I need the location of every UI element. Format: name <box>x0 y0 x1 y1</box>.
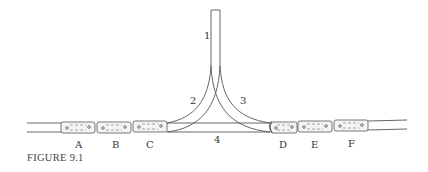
car-e <box>298 121 332 132</box>
car-label-d: D <box>279 139 287 150</box>
main-track-right-rail-bottom <box>368 129 407 130</box>
track-label-1: 1 <box>204 30 210 41</box>
car-f <box>334 120 368 131</box>
car-a <box>61 122 95 133</box>
car-d <box>269 122 297 133</box>
car-label-e: E <box>311 139 318 150</box>
figure-canvas: 1 2 3 4 A B C D E F FIGURE 9.1 <box>0 0 428 172</box>
car-label-a: A <box>74 139 83 150</box>
car-label-c: C <box>146 139 154 150</box>
railway-diagram: 1 2 3 4 A B C D E F <box>0 0 428 172</box>
car-b <box>97 122 131 133</box>
track-1-stem <box>211 10 220 66</box>
car-c <box>133 121 167 132</box>
track-label-3: 3 <box>240 95 246 106</box>
track-label-2: 2 <box>190 95 196 106</box>
car-label-f: F <box>348 138 355 149</box>
track-label-4: 4 <box>214 134 220 145</box>
car-label-b: B <box>112 139 119 150</box>
main-track-right-rail-top <box>368 120 407 121</box>
figure-caption: FIGURE 9.1 <box>27 152 84 163</box>
